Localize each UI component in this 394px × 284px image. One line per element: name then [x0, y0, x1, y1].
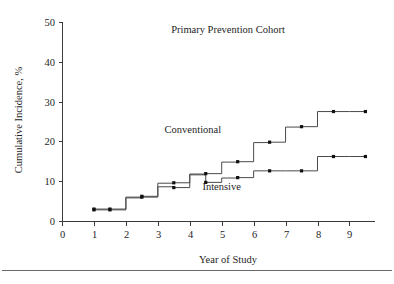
- y-axis-title: Cumulative Incidence, %: [13, 67, 24, 174]
- x-tick-label-8: 8: [316, 229, 321, 240]
- data-point-intensive-9: [332, 155, 335, 158]
- data-point-conventional-5: [204, 172, 207, 175]
- data-point-conventional-9: [332, 110, 335, 113]
- data-point-conventional-4: [172, 181, 175, 184]
- data-point-intensive-3: [140, 196, 143, 199]
- series-annotations-group: ConventionalIntensive: [165, 124, 242, 192]
- figure-container: 010203040500123456789 ConventionalIntens…: [0, 0, 394, 284]
- data-point-intensive-10: [364, 155, 367, 158]
- series-group: [94, 112, 365, 210]
- data-point-intensive-4: [172, 186, 175, 189]
- cumulative-incidence-step-chart: 010203040500123456789 ConventionalIntens…: [0, 0, 394, 284]
- data-point-conventional-10: [364, 110, 367, 113]
- x-tick-label-4: 4: [188, 229, 194, 240]
- data-point-conventional-8: [300, 125, 303, 128]
- y-tick-label-20: 20: [45, 136, 56, 147]
- x-tick-label-1: 1: [92, 229, 97, 240]
- series-annotation-intensive: Intensive: [202, 181, 241, 192]
- y-tick-label-10: 10: [45, 176, 56, 187]
- chart-title: Primary Prevention Cohort: [171, 24, 285, 35]
- series-annotation-conventional: Conventional: [165, 124, 222, 135]
- x-axis-title: Year of Study: [199, 254, 258, 265]
- y-tick-label-30: 30: [45, 97, 56, 108]
- data-point-intensive-1: [92, 208, 95, 211]
- data-point-intensive-2: [108, 208, 111, 211]
- x-tick-label-2: 2: [124, 229, 129, 240]
- data-point-conventional-7: [268, 141, 271, 144]
- x-tick-label-5: 5: [220, 229, 225, 240]
- x-tick-label-6: 6: [252, 229, 257, 240]
- x-tick-label-7: 7: [284, 229, 289, 240]
- data-point-conventional-6: [236, 160, 239, 163]
- x-tick-label-0: 0: [60, 229, 65, 240]
- data-point-intensive-7: [268, 169, 271, 172]
- markers-group: [92, 110, 367, 212]
- y-tick-label-50: 50: [45, 17, 56, 28]
- data-point-intensive-6: [236, 176, 239, 179]
- step-line-conventional: [94, 112, 365, 210]
- x-tick-label-9: 9: [347, 229, 352, 240]
- y-tick-label-0: 0: [50, 216, 55, 227]
- data-point-intensive-8: [300, 169, 303, 172]
- x-tick-label-3: 3: [156, 229, 161, 240]
- y-tick-label-40: 40: [45, 57, 56, 68]
